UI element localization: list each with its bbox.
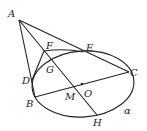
diagram-canvas: A F E C G D B M O H α <box>0 0 147 131</box>
label-B: B <box>25 98 33 109</box>
label-O: O <box>84 88 92 99</box>
label-C: C <box>130 67 138 78</box>
label-G: G <box>46 64 54 75</box>
label-M: M <box>64 91 76 102</box>
label-F: F <box>45 40 54 51</box>
line-AC <box>19 20 129 72</box>
center-dot-O <box>81 83 84 86</box>
label-alpha: α <box>124 105 131 116</box>
label-A: A <box>7 8 15 19</box>
label-E: E <box>85 42 94 53</box>
label-H: H <box>92 117 102 128</box>
geometry-figure: A F E C G D B M O H α <box>0 0 147 131</box>
label-D: D <box>21 75 30 86</box>
